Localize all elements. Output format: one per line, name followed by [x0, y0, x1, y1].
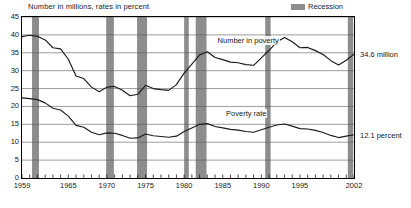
y-tick-label: 30 — [1, 67, 19, 75]
plot-area — [21, 16, 355, 179]
recession-band — [106, 17, 114, 178]
poverty-chart: Number in millions, rates in percent Rec… — [0, 0, 411, 208]
recession-band — [184, 17, 189, 178]
x-tick-label: 1975 — [137, 182, 154, 190]
x-tick-label: 1970 — [99, 182, 116, 190]
y-tick-label: 35 — [1, 49, 19, 57]
recession-band — [137, 17, 147, 178]
x-tick-label: 1965 — [60, 182, 77, 190]
y-axis-ticks: 051015202530354045 — [0, 16, 19, 179]
y-tick-label: 45 — [1, 13, 19, 21]
y-tick-label: 10 — [1, 138, 19, 146]
recession-band — [196, 17, 207, 178]
series-label-poverty-rate: Poverty rate — [225, 109, 267, 118]
y-tick-label: 20 — [1, 102, 19, 110]
legend-recession: Recession — [291, 2, 343, 11]
chart-axis-title: Number in millions, rates in percent — [28, 2, 149, 11]
recession-band — [348, 17, 353, 178]
recession-swatch-icon — [291, 4, 305, 10]
x-tick-label: 1995 — [292, 182, 309, 190]
y-tick-label: 25 — [1, 85, 19, 93]
plot-svg — [22, 17, 354, 178]
x-tick-label: 1990 — [253, 182, 270, 190]
x-tick-label: 1985 — [214, 182, 231, 190]
y-tick-label: 40 — [1, 31, 19, 39]
x-tick-label: 2002 — [346, 182, 363, 190]
y-tick-label: 5 — [1, 156, 19, 164]
recession-band — [32, 17, 39, 178]
x-tick-label: 1959 — [14, 182, 31, 190]
end-label-number-in-poverty: 34.6 million — [360, 50, 398, 59]
x-tick-label: 1980 — [176, 182, 193, 190]
end-label-poverty-rate: 12.1 percent — [360, 131, 402, 140]
legend-label: Recession — [308, 2, 343, 11]
y-tick-label: 15 — [1, 120, 19, 128]
series-label-number-in-poverty: Number in poverty — [217, 36, 280, 45]
